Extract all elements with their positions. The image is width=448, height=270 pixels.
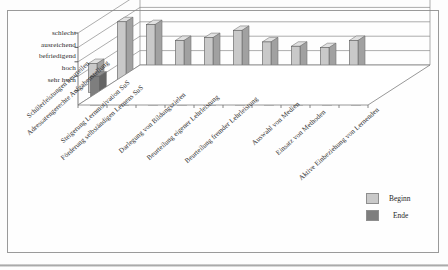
- chart-figure: schlecht ausreichend befriedigend hoch s…: [0, 0, 448, 270]
- chart-legend: Beginn Ende: [366, 190, 410, 224]
- legend-entry-beginn: Beginn: [366, 190, 410, 207]
- legend-swatch-ende: [366, 210, 379, 221]
- ytick-label-hoch: hoch: [8, 64, 76, 72]
- legend-swatch-beginn: [366, 193, 379, 204]
- ytick-label-ausreichend: ausreichend: [8, 41, 76, 49]
- ytick-label-schlecht: schlecht: [8, 29, 76, 37]
- legend-entry-ende: Ende: [366, 207, 410, 224]
- scan-artifact-line: [0, 264, 448, 267]
- legend-label-beginn: Beginn: [389, 194, 410, 203]
- legend-label-ende: Ende: [393, 211, 408, 220]
- ytick-label-befriedigend: befriedigend: [8, 52, 76, 60]
